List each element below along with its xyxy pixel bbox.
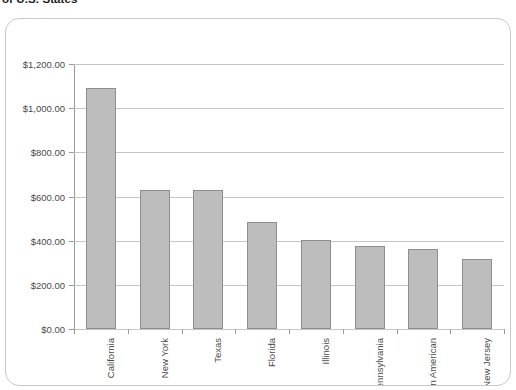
y-axis-tick	[69, 108, 74, 109]
bar	[86, 88, 116, 329]
plot-area: $0.00$200.00$400.00$600.00$800.00$1,000.…	[74, 64, 504, 329]
gridline	[74, 108, 504, 109]
x-axis-tick	[74, 329, 75, 334]
bar	[247, 222, 277, 329]
chart-frame: $0.00$200.00$400.00$600.00$800.00$1,000.…	[5, 18, 511, 386]
x-axis-label: California	[105, 338, 116, 378]
x-axis-tick	[504, 329, 505, 334]
bar	[140, 190, 170, 329]
y-axis-tick	[69, 241, 74, 242]
x-axis-tick	[450, 329, 451, 334]
gridline	[74, 285, 504, 286]
gridline	[74, 241, 504, 242]
x-axis-label: New Jersey	[481, 338, 492, 386]
y-axis-tick	[69, 152, 74, 153]
chart-title-strip: of U.S. States	[0, 0, 516, 13]
y-axis-tick	[69, 285, 74, 286]
x-axis-label: Texas	[212, 338, 223, 363]
x-axis-label: New York	[159, 338, 170, 378]
x-axis-label: Florida	[266, 338, 277, 367]
gridline	[74, 152, 504, 153]
y-axis-tick	[69, 64, 74, 65]
x-axis-tick	[397, 329, 398, 334]
y-axis-label: $600.00	[31, 191, 65, 202]
x-axis-tick	[235, 329, 236, 334]
x-axis-tick	[182, 329, 183, 334]
y-axis-label: $800.00	[31, 147, 65, 158]
y-axis-label: $1,000.00	[23, 103, 65, 114]
x-axis-tick	[343, 329, 344, 334]
bar	[408, 249, 438, 329]
gridline	[74, 64, 504, 65]
x-axis-label: Pennsylvania	[374, 338, 385, 386]
y-axis-label: $200.00	[31, 279, 65, 290]
x-axis-tick	[128, 329, 129, 334]
chart-page: of U.S. States $0.00$200.00$400.00$600.0…	[0, 0, 516, 390]
page-title: of U.S. States	[2, 0, 78, 5]
y-axis-tick	[69, 197, 74, 198]
bar	[355, 246, 385, 329]
bar	[462, 259, 492, 329]
gridline	[74, 197, 504, 198]
bar	[193, 190, 223, 329]
y-axis-label: $400.00	[31, 235, 65, 246]
y-axis-label: $1,200.00	[23, 59, 65, 70]
x-axis-label: Illinois	[320, 338, 331, 364]
x-axis-tick	[289, 329, 290, 334]
bar	[301, 240, 331, 329]
x-axis-label: Asian American	[427, 338, 438, 386]
y-axis-label: $0.00	[41, 324, 65, 335]
